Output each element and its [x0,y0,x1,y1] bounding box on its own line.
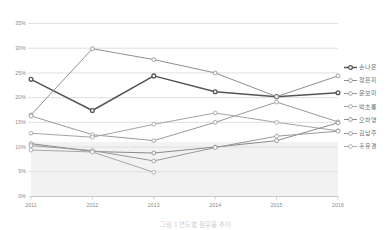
data-point-marker [152,139,156,143]
data-point-marker [336,129,340,133]
legend-item-6[interactable]: 김남주 [344,126,391,139]
data-point-marker [275,139,279,143]
legend-marker-icon [344,116,357,123]
legend-item-label: 손나은 [359,64,377,70]
legend-marker-icon [344,143,357,150]
data-point-marker [213,90,217,94]
x-axis-label: 2012 [74,202,110,208]
data-point-marker [29,114,33,118]
x-axis-label: 2014 [197,202,233,208]
data-point-marker [152,122,156,126]
legend-item-label: 정은지 [359,77,377,83]
legend-item-label: 오하영 [359,117,377,123]
data-point-marker [336,91,340,95]
data-point-marker [275,120,279,124]
data-point-marker [275,134,279,138]
data-point-marker [91,150,95,154]
y-axis-label: 0% [2,193,26,199]
data-point-marker [152,74,156,78]
y-axis-label: 35% [2,20,26,26]
data-point-marker [29,144,33,148]
x-axis-label: 2013 [136,202,172,208]
data-point-marker [275,95,279,99]
y-axis-label: 25% [2,70,26,76]
legend-marker-icon [344,77,357,84]
data-point-marker [91,135,95,139]
figure-caption: 그림 1 연도별 점유율 추이 [0,219,391,230]
legend-item-label: 김남주 [359,130,377,136]
data-point-marker [213,146,217,150]
legend-marker-icon [344,103,357,110]
legend-item-2[interactable]: 정은지 [344,74,391,87]
data-point-marker [29,148,33,152]
data-point-marker [213,71,217,75]
data-point-marker [152,170,156,174]
data-point-marker [152,151,156,155]
legend-item-7[interactable]: 홍유경 [344,140,391,153]
legend-marker-icon [344,130,357,137]
y-axis-label: 5% [2,168,26,174]
data-point-marker [29,131,33,135]
data-point-marker [336,74,340,78]
data-point-marker [91,109,95,113]
legend-item-label: 윤보미 [359,90,377,96]
series-line [29,74,340,112]
legend-marker-icon [344,64,357,71]
legend-item-label: 홍유경 [359,143,377,149]
y-axis-label: 10% [2,144,26,150]
legend-marker-icon [344,90,357,97]
data-point-marker [275,100,279,104]
x-axis-label: 2016 [320,202,356,208]
y-axis-label: 20% [2,94,26,100]
y-axis-label: 15% [2,119,26,125]
data-point-marker [91,47,95,51]
line-chart: 손나은정은지윤보미박초롱오하영김남주홍유경 그림 1 연도별 점유율 추이 0%… [0,0,391,230]
y-axis-label: 30% [2,45,26,51]
legend-item-label: 박초롱 [359,104,377,110]
data-point-marker [213,111,217,115]
data-point-marker [29,77,33,81]
legend-item-4[interactable]: 박초롱 [344,100,391,113]
data-point-marker [152,58,156,62]
plot-area [0,0,391,230]
series-line [29,47,340,117]
x-axis-label: 2015 [259,202,295,208]
legend-item-5[interactable]: 오하영 [344,113,391,126]
x-axis-label: 2011 [13,202,49,208]
data-point-marker [336,121,340,125]
legend-item-1[interactable]: 손나은 [344,61,391,74]
data-point-marker [152,159,156,163]
data-point-marker [213,120,217,124]
chart-legend: 손나은정은지윤보미박초롱오하영김남주홍유경 [344,61,391,153]
legend-item-3[interactable]: 윤보미 [344,87,391,100]
